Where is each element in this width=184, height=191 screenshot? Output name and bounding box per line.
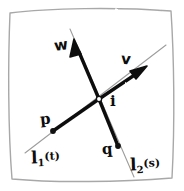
line-intersection-diagram: w v i p q l1(t) l2(s) — [0, 0, 184, 191]
line-1-label: l1(t) — [31, 149, 61, 169]
line-1-extension — [25, 45, 166, 153]
line-2-label-arg: (s) — [143, 156, 160, 170]
vector-w-label: w — [53, 37, 69, 54]
line-1-label-arg: (t) — [44, 150, 60, 164]
point-p-label: p — [39, 111, 51, 127]
point-q-label: q — [101, 142, 113, 158]
line-2-label: l2(s) — [130, 155, 161, 175]
intersection-marker — [96, 96, 101, 101]
vector-v-label: v — [120, 52, 131, 68]
intersection-label: i — [110, 94, 116, 109]
point-q-marker — [115, 143, 121, 149]
point-p-marker — [50, 128, 56, 134]
